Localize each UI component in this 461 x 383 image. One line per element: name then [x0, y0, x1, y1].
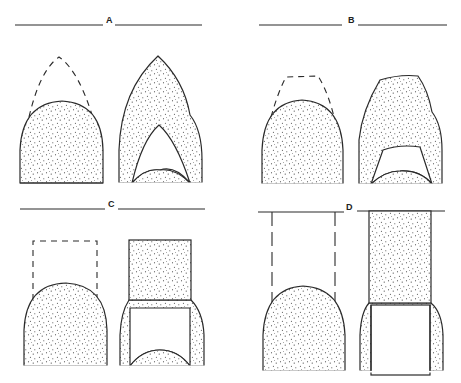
panel-d-left-figure: [262, 212, 346, 372]
stippled-dome: [262, 100, 343, 184]
stippled-dome: [263, 286, 345, 371]
stippled-dome: [24, 283, 107, 366]
panel-b-right-figure: [358, 76, 443, 185]
panel-c-label: C: [108, 199, 115, 209]
panel-b: B: [259, 15, 447, 185]
stippled-rectangle: [129, 240, 191, 300]
diagram-figure: A B C: [0, 0, 461, 383]
panel-a-label: A: [106, 15, 113, 25]
panel-a-right-figure: [118, 56, 203, 184]
panel-c: C: [20, 199, 205, 367]
panel-b-label: B: [348, 15, 355, 25]
hollow-inner-rectangle: [371, 305, 430, 375]
panel-d: D: [258, 202, 445, 375]
stippled-dome: [20, 101, 103, 183]
panel-b-left-figure: [261, 76, 344, 185]
panel-c-right-figure: [119, 240, 205, 367]
panel-d-label: D: [346, 202, 353, 212]
panel-d-right-figure: [359, 211, 444, 375]
panel-a-left-figure: [20, 57, 103, 183]
panel-a: A: [15, 15, 203, 184]
panel-c-left-figure: [23, 241, 108, 367]
stippled-tall-rectangle: [369, 211, 431, 303]
